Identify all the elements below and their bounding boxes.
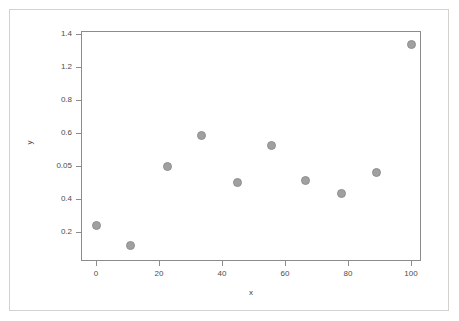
y-axis-tick <box>76 34 81 35</box>
y-axis-tick-label: 0.8 <box>0 95 72 104</box>
scatter-point <box>372 168 381 177</box>
y-axis-tick <box>76 199 81 200</box>
scatter-point <box>267 141 276 150</box>
x-axis-tick <box>285 261 286 266</box>
plot-frame <box>81 31 421 261</box>
y-axis-tick <box>76 67 81 68</box>
scatter-point <box>407 40 416 49</box>
scatter-point <box>92 221 101 230</box>
y-axis-tick <box>76 166 81 167</box>
y-axis-tick-label: 1.2 <box>0 62 72 71</box>
x-axis-tick-label: 60 <box>265 269 305 278</box>
x-axis-tick <box>159 261 160 266</box>
x-axis-label: x <box>81 288 421 297</box>
scatter-point <box>197 131 206 140</box>
y-axis-tick <box>76 100 81 101</box>
y-axis-tick-label: 0.6 <box>0 128 72 137</box>
x-axis-tick <box>411 261 412 266</box>
y-axis-tick <box>76 232 81 233</box>
y-axis-tick-label: 0.4 <box>0 194 72 203</box>
scatter-point <box>233 178 242 187</box>
y-axis-tick-label: 0.05 <box>0 161 72 170</box>
x-axis-tick-label: 20 <box>139 269 179 278</box>
chart-screenshot: 020406080100 1.41.20.80.60.050.40.2 x y <box>0 0 459 321</box>
y-axis-label: y <box>25 141 34 145</box>
x-axis-tick <box>222 261 223 266</box>
y-axis-tick-label: 0.2 <box>0 227 72 236</box>
x-axis-tick-label: 80 <box>328 269 368 278</box>
scatter-point <box>163 162 172 171</box>
y-axis-tick-label: 1.4 <box>0 29 72 38</box>
y-axis-tick <box>76 133 81 134</box>
x-axis-tick <box>96 261 97 266</box>
x-axis-tick-label: 100 <box>391 269 431 278</box>
x-axis-tick-label: 40 <box>202 269 242 278</box>
x-axis-tick <box>348 261 349 266</box>
x-axis-tick-label: 0 <box>76 269 116 278</box>
scatter-point <box>126 241 135 250</box>
scatter-point <box>337 189 346 198</box>
scatter-point <box>301 176 310 185</box>
